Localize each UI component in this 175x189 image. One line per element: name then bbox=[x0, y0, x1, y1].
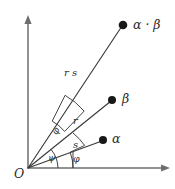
label-origin: O bbox=[14, 168, 24, 181]
label-angle-phi-base: φ bbox=[73, 154, 80, 164]
tick-r-band-upper bbox=[52, 95, 65, 121]
axes-group bbox=[24, 15, 170, 172]
ray-to-beta bbox=[28, 101, 111, 168]
dot-alpha-beta bbox=[119, 21, 128, 30]
label-segment-beta: r bbox=[73, 116, 78, 126]
figure-canvas: α · β β α r s r s φ ψ φ O bbox=[0, 0, 175, 189]
vertical-axis-arrow-icon bbox=[24, 15, 31, 24]
dot-alpha bbox=[99, 136, 107, 144]
label-segment-alpha-beta: r s bbox=[64, 68, 77, 78]
label-point-alpha-beta: α · β bbox=[133, 19, 161, 32]
label-segment-alpha: s bbox=[73, 140, 78, 150]
label-angle-psi-base: ψ bbox=[48, 153, 55, 163]
dot-beta bbox=[108, 96, 116, 104]
ray-to-alpha bbox=[28, 141, 102, 168]
label-point-beta: β bbox=[122, 93, 129, 106]
label-point-alpha: α bbox=[112, 133, 120, 146]
horizontal-axis-arrow-icon bbox=[161, 164, 170, 171]
